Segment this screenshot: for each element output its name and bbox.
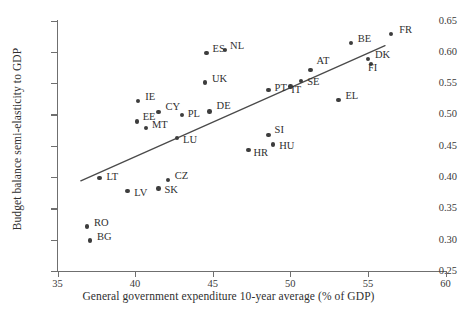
data-point-cy (156, 110, 160, 114)
data-point-el (336, 98, 340, 102)
data-point-sk (156, 186, 160, 190)
data-point-label-sk: SK (164, 185, 177, 196)
data-point-label-el: EL (345, 91, 358, 102)
data-point-label-lu: LU (183, 135, 197, 146)
y-axis-title: Budget balance semi-elasticity to GDP (11, 14, 23, 264)
data-point-label-fr: FR (399, 25, 412, 36)
data-point-label-bg: BG (97, 232, 112, 243)
data-point-label-lt: LT (106, 172, 118, 183)
data-point-label-be: BE (358, 34, 371, 45)
data-point-uk (203, 80, 207, 84)
data-point-dk (366, 57, 370, 61)
data-point-label-ie: IE (145, 92, 155, 103)
data-point-bg (88, 238, 92, 242)
data-point-lv (125, 189, 129, 193)
data-point-hr (246, 148, 250, 152)
data-point-label-cz: CZ (175, 171, 188, 182)
data-point-label-uk: UK (212, 74, 227, 85)
data-point-pt (266, 88, 270, 92)
data-point-label-si: SI (275, 125, 284, 136)
data-point-at (308, 68, 312, 72)
data-point-label-nl: NL (230, 41, 244, 52)
data-point-label-mt: MT (152, 120, 168, 131)
data-point-label-hr: HR (253, 148, 268, 159)
data-point-label-fi: FI (368, 63, 377, 74)
data-point-es (204, 51, 208, 55)
data-point-label-se: SE (307, 77, 319, 88)
data-point-label-hu: HU (279, 141, 294, 152)
data-point-label-cy: CY (165, 102, 180, 113)
data-point-label-es: ES (213, 44, 225, 55)
data-point-label-ro: RO (94, 218, 109, 229)
data-point-si (266, 133, 270, 137)
data-point-label-at: AT (317, 56, 330, 67)
data-point-ee (135, 119, 139, 123)
data-point-lt (97, 176, 101, 180)
data-point-ro (85, 224, 89, 228)
data-point-label-lv: LV (134, 188, 147, 199)
data-point-label-pl: PL (188, 109, 200, 120)
data-point-label-dk: DK (375, 50, 390, 61)
data-point-de (207, 109, 211, 113)
x-axis-title: General government expenditure 10-year a… (0, 290, 457, 302)
data-point-label-it: IT (291, 85, 301, 96)
data-point-label-de: DE (217, 101, 231, 112)
data-point-label-pt: PT (275, 83, 287, 94)
